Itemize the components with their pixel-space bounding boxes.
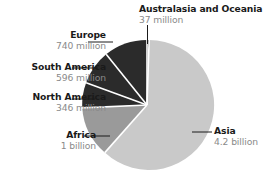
slice-label-value: 596 million bbox=[0, 73, 106, 84]
slice-label-value: 37 million bbox=[139, 15, 262, 26]
slice-label-north-america: North America 346 million bbox=[0, 92, 106, 114]
slice-label-asia: Asia 4.2 billion bbox=[214, 126, 258, 148]
pie-chart-figure: Australasia and Oceania 37 million Europ… bbox=[0, 0, 279, 174]
slice-label-australasia-and-oceania: Australasia and Oceania 37 million bbox=[139, 4, 262, 26]
slice-label-value: 740 million bbox=[2, 41, 106, 52]
slice-label-value: 4.2 billion bbox=[214, 137, 258, 148]
slice-label-africa: Africa 1 billion bbox=[0, 130, 96, 152]
slice-label-value: 346 million bbox=[0, 103, 106, 114]
slice-label-europe: Europe 740 million bbox=[2, 30, 106, 52]
slice-label-south-america: South America 596 million bbox=[0, 62, 106, 84]
slice-label-value: 1 billion bbox=[0, 141, 96, 152]
